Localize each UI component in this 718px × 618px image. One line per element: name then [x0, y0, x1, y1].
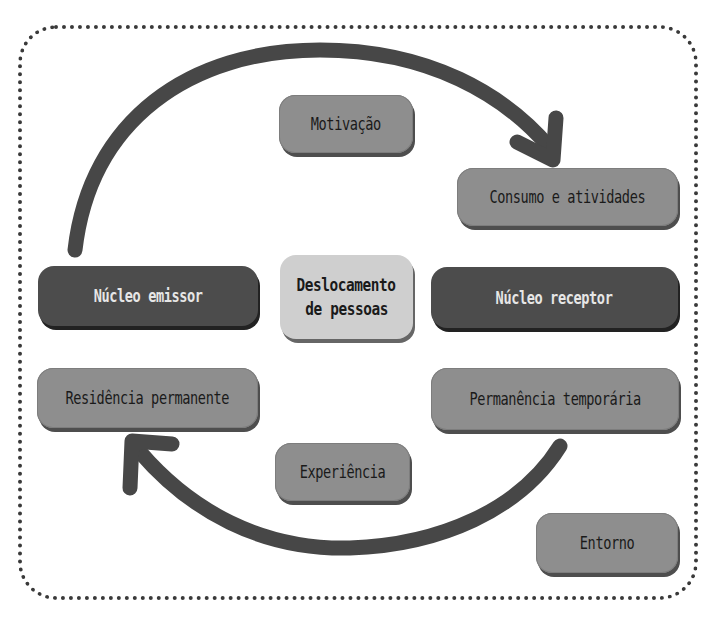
node-label: Entorno	[580, 533, 635, 553]
node-label: Núcleo emissor	[93, 286, 202, 306]
node-deslocamento-de-pessoas: Deslocamento de pessoas	[280, 255, 413, 339]
center-label-line2: de pessoas	[305, 297, 388, 321]
node-label: Núcleo receptor	[496, 288, 613, 308]
node-nucleo-emissor: Núcleo emissor	[38, 266, 258, 326]
node-residencia-permanente: Residência permanente	[37, 368, 258, 428]
node-permanencia-temporaria: Permanência temporária	[431, 368, 679, 430]
node-experiencia: Experiência	[275, 443, 410, 501]
node-motivacao: Motivação	[279, 95, 413, 153]
node-label: Permanência temporária	[469, 389, 640, 409]
node-label: Consumo e atividades	[490, 187, 646, 207]
center-label-line1: Deslocamento	[297, 273, 396, 297]
node-consumo-e-atividades: Consumo e atividades	[457, 168, 678, 226]
node-entorno: Entorno	[536, 513, 678, 573]
node-label: Experiência	[300, 462, 386, 482]
node-nucleo-receptor: Núcleo receptor	[431, 267, 678, 328]
node-label: Motivação	[311, 114, 381, 134]
node-label: Residência permanente	[66, 388, 230, 408]
